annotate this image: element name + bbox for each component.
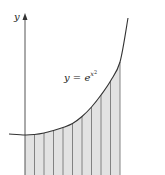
curve-label-exponent-power: 2 <box>94 69 97 75</box>
curve-label: y = ex2 <box>63 69 97 83</box>
y-axis-label: y <box>13 11 20 22</box>
riemann-sum-diagram: y y = ex2 <box>0 0 165 175</box>
curve-label-base: y = e <box>63 72 90 83</box>
y-axis-arrowhead-icon <box>23 13 28 20</box>
